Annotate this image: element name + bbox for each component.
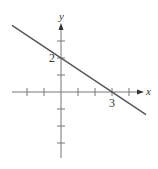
y-intercept-label: 2	[49, 51, 55, 65]
function-line	[12, 25, 146, 114]
y-axis-label: y	[58, 10, 64, 22]
x-axis-arrow-icon	[137, 90, 144, 95]
x-intercept-label: 3	[109, 96, 115, 110]
linear-function-graph: y x 2 3	[0, 0, 158, 169]
x-axis-label: x	[145, 85, 151, 97]
y-axis-arrow-icon	[59, 23, 64, 30]
